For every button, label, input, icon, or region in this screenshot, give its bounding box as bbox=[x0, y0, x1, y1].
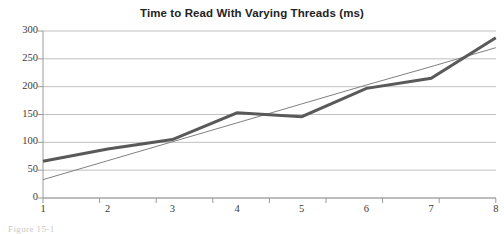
x-tick-label: 5 bbox=[287, 203, 317, 214]
x-tick-label: 8 bbox=[481, 203, 504, 214]
figure-caption: Figure 15-1 bbox=[8, 224, 55, 234]
x-tick-label: 4 bbox=[222, 203, 252, 214]
x-axis-tick-labels: 12345678 bbox=[0, 0, 504, 234]
x-tick-label: 1 bbox=[28, 203, 58, 214]
x-tick-label: 7 bbox=[416, 203, 446, 214]
chart-container: Time to Read With Varying Threads (ms) bbox=[0, 0, 504, 234]
x-tick-label: 3 bbox=[157, 203, 187, 214]
x-tick-label: 2 bbox=[93, 203, 123, 214]
x-tick-label: 6 bbox=[351, 203, 381, 214]
